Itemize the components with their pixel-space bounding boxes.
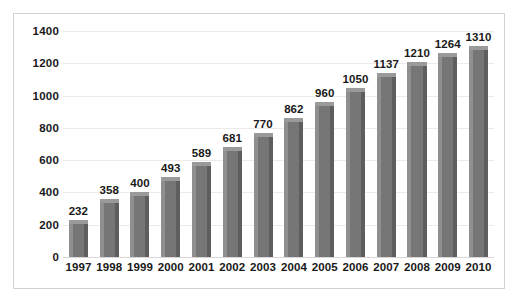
x-tick-label: 1999 (127, 261, 153, 273)
bar-right-face (330, 102, 334, 257)
bar-value-label: 400 (130, 177, 150, 189)
bar-value-label: 232 (69, 205, 89, 217)
bar-top-face (346, 88, 365, 92)
bar-column[interactable]: 358 (100, 31, 119, 257)
bar[interactable] (377, 73, 396, 257)
bar-value-label: 770 (253, 118, 273, 130)
bar-value-label: 493 (161, 162, 181, 174)
chart-frame: 0200400600800100012001400 23235840049358… (13, 13, 505, 289)
bar-front-face (319, 106, 330, 257)
bar-top-face (130, 192, 149, 196)
bar-column[interactable]: 400 (130, 31, 149, 257)
bar[interactable] (161, 177, 180, 257)
bar-value-label: 1310 (466, 31, 492, 43)
bar-front-face (227, 151, 238, 257)
bar[interactable] (100, 199, 119, 257)
bar-column[interactable]: 681 (223, 31, 242, 257)
y-tick-label: 600 (39, 154, 59, 166)
x-tick-label: 2000 (158, 261, 184, 273)
bar-front-face (288, 122, 299, 257)
y-tick-label: 400 (39, 186, 59, 198)
bar[interactable] (254, 133, 273, 257)
x-tick-label: 1997 (65, 261, 91, 273)
bar-column[interactable]: 1310 (469, 31, 488, 257)
bar-right-face (453, 53, 457, 257)
bar-column[interactable]: 862 (284, 31, 303, 257)
bar-right-face (176, 177, 180, 257)
bar-value-label: 1050 (342, 73, 368, 85)
bar-value-label: 960 (315, 87, 335, 99)
bar-front-face (411, 66, 422, 257)
bar-front-face (258, 137, 269, 257)
bar-top-face (284, 118, 303, 122)
bar-column[interactable]: 589 (192, 31, 211, 257)
bar-column[interactable]: 232 (69, 31, 88, 257)
bar[interactable] (469, 46, 488, 257)
bar-top-face (69, 220, 88, 224)
x-tick-label: 1998 (96, 261, 122, 273)
bar-front-face (73, 224, 84, 257)
bar[interactable] (407, 62, 426, 257)
y-tick-label: 1400 (33, 25, 59, 37)
y-tick-label: 0 (52, 251, 59, 263)
axis-baseline (63, 257, 494, 258)
bar-right-face (423, 62, 427, 257)
bar-top-face (469, 46, 488, 50)
bar-value-label: 1264 (435, 38, 461, 50)
bar[interactable] (438, 53, 457, 257)
bar-front-face (104, 203, 115, 257)
bar-right-face (84, 220, 88, 257)
bar-right-face (484, 46, 488, 257)
bar-top-face (100, 199, 119, 203)
y-tick-label: 1200 (33, 57, 59, 69)
bar-column[interactable]: 1264 (438, 31, 457, 257)
x-tick-label: 2006 (342, 261, 368, 273)
x-tick-label: 2007 (373, 261, 399, 273)
bar-right-face (145, 192, 149, 257)
bar-column[interactable]: 493 (161, 31, 180, 257)
x-tick-label: 2002 (219, 261, 245, 273)
bar-top-face (161, 177, 180, 181)
bar-front-face (196, 166, 207, 257)
y-tick-label: 200 (39, 219, 59, 231)
bar[interactable] (315, 102, 334, 257)
x-tick-label: 2010 (466, 261, 492, 273)
bar-front-face (473, 50, 484, 257)
bar[interactable] (192, 162, 211, 257)
bar-column[interactable]: 1137 (377, 31, 396, 257)
x-tick-label: 2009 (435, 261, 461, 273)
bar[interactable] (130, 192, 149, 257)
bar-right-face (115, 199, 119, 257)
bar-top-face (438, 53, 457, 57)
x-tick-label: 2004 (281, 261, 307, 273)
bar-column[interactable]: 960 (315, 31, 334, 257)
bar-top-face (315, 102, 334, 106)
y-axis: 0200400600800100012001400 (14, 31, 59, 257)
bar-value-label: 589 (192, 147, 212, 159)
bar-right-face (207, 162, 211, 257)
bar-value-label: 1137 (374, 58, 399, 70)
bar-right-face (238, 147, 242, 257)
bar-top-face (192, 162, 211, 166)
bar-front-face (165, 181, 176, 257)
bar-right-face (269, 133, 273, 257)
bar-front-face (442, 57, 453, 257)
bar-top-face (254, 133, 273, 137)
bar-value-label: 681 (223, 132, 243, 144)
bar[interactable] (284, 118, 303, 257)
bar[interactable] (223, 147, 242, 257)
x-tick-label: 2008 (404, 261, 430, 273)
bar-right-face (361, 88, 365, 258)
bar-column[interactable]: 770 (254, 31, 273, 257)
y-tick-label: 1000 (33, 90, 59, 102)
bar-right-face (392, 73, 396, 257)
bar-column[interactable]: 1210 (407, 31, 426, 257)
x-tick-label: 2005 (312, 261, 338, 273)
bar-top-face (407, 62, 426, 66)
bar[interactable] (346, 88, 365, 258)
bar-top-face (377, 73, 396, 77)
bar-right-face (299, 118, 303, 257)
bar-value-label: 358 (99, 184, 119, 196)
bar[interactable] (69, 220, 88, 257)
bar-column[interactable]: 1050 (346, 31, 365, 257)
